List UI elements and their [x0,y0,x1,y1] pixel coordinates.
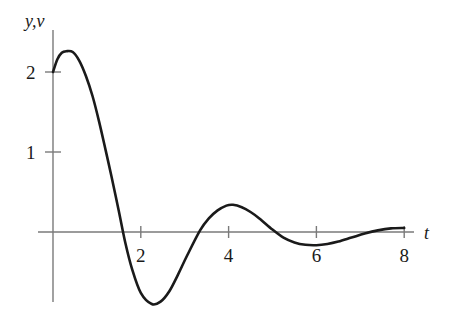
y-tick-label-2: 2 [26,63,36,82]
data-curve [53,51,404,305]
damped-oscillation-chart [0,0,455,320]
y-axis-label: y,v [25,12,45,30]
figure-container: 12 2468 y,v t [0,0,455,320]
x-tick-label-4: 4 [224,246,234,265]
x-tick-label-2: 2 [136,246,146,265]
x-axis-label: t [424,224,429,242]
x-tick-label-8: 8 [399,246,409,265]
x-tick-label-6: 6 [312,246,322,265]
y-tick-label-1: 1 [26,143,36,162]
